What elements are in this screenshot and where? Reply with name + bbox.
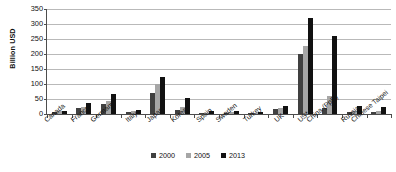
bar — [234, 111, 239, 114]
legend-swatch-icon — [186, 153, 191, 158]
y-axis-tick-label: 350 — [31, 5, 43, 12]
y-axis-tick-label: 250 — [31, 35, 43, 42]
legend-item[interactable]: 2005 — [186, 152, 210, 159]
legend-label: 2013 — [229, 152, 245, 159]
bar-group — [72, 9, 97, 114]
bar-group — [293, 9, 318, 114]
legend-label: 2000 — [159, 152, 175, 159]
bar-group — [342, 9, 367, 114]
plot-area: 050100150200250300350 — [46, 9, 391, 115]
bar-group — [145, 9, 170, 114]
bar — [62, 111, 67, 114]
y-axis-tick-label: 200 — [31, 50, 43, 57]
legend-swatch-icon — [221, 153, 226, 158]
y-axis-tick-label: 300 — [31, 20, 43, 27]
bar-group — [244, 9, 269, 114]
y-axis-tick-label: 50 — [35, 95, 43, 102]
bar-group — [194, 9, 219, 114]
x-axis-tick-mark — [391, 114, 392, 118]
bar-chart: Billion USD 050100150200250300350 Canada… — [0, 0, 396, 172]
bar-group — [219, 9, 244, 114]
bar-group — [170, 9, 195, 114]
legend-label: 2005 — [194, 152, 210, 159]
legend-swatch-icon — [151, 153, 156, 158]
bar — [381, 107, 386, 114]
y-axis-tick-label: 100 — [31, 80, 43, 87]
bar-group — [96, 9, 121, 114]
bar — [283, 106, 288, 114]
legend-item[interactable]: 2013 — [221, 152, 245, 159]
bar-group — [121, 9, 146, 114]
chart-legend: 200020052013 — [0, 152, 396, 159]
y-axis-title: Billion USD — [8, 19, 17, 79]
bar-group — [268, 9, 293, 114]
y-axis-tick-label: 150 — [31, 65, 43, 72]
legend-item[interactable]: 2000 — [151, 152, 175, 159]
bar — [308, 18, 313, 114]
bar-group — [47, 9, 72, 114]
